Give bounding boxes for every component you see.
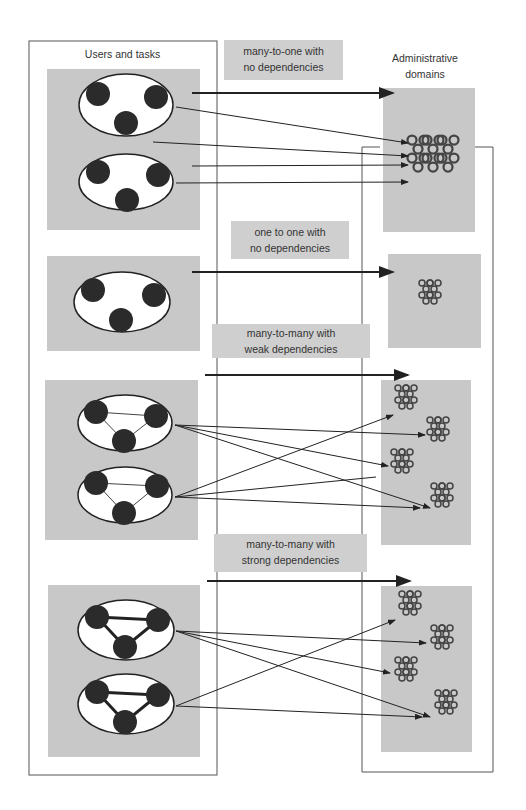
users-tasks-title: Users and tasks: [60, 46, 185, 62]
mapping-label-3: many-to-many with weak dependencies: [212, 324, 370, 358]
task-group-1a: [79, 74, 173, 136]
mapping-label-2: one to one with no dependencies: [231, 221, 349, 259]
mapping-label-1: many-to-one with no dependencies: [224, 40, 343, 80]
task-group-4a: [78, 600, 174, 660]
admin-domains-title-line2: domains: [370, 66, 480, 82]
domain-panel-2: [388, 254, 481, 348]
domain-panel-4: [381, 586, 472, 752]
task-group-4b: [78, 674, 174, 734]
task-group-2: [74, 272, 170, 332]
domain-panel-3: [381, 380, 471, 545]
diagram-canvas: [0, 0, 526, 810]
mapping-label-4: many-to-many with strong dependencies: [214, 534, 367, 572]
admin-domains-title-line1: Administrative: [370, 50, 480, 66]
